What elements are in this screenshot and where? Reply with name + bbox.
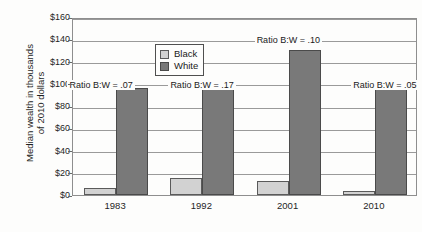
annotation-ratio-1983: Ratio B:W = .07	[67, 80, 134, 90]
y-axis-tick-label: $140	[34, 35, 70, 44]
bar-white-1983	[116, 88, 148, 195]
annotation-ratio-1992: Ratio B:W = .17	[168, 80, 235, 90]
y-axis-tick-label: $40	[34, 147, 70, 156]
bar-group-container	[73, 19, 416, 195]
legend-item-black: Black	[160, 48, 198, 60]
bar-white-2001	[289, 50, 321, 195]
bar-black-2001	[257, 181, 289, 195]
bar-white-2010	[375, 88, 407, 195]
bar-black-1992	[170, 178, 202, 195]
plot-area: Ratio B:W = .07Ratio B:W = .17Ratio B:W …	[72, 18, 417, 196]
legend-label-black: Black	[174, 49, 197, 59]
y-axis-tick-label: $60	[34, 124, 70, 133]
legend-swatch-white-icon	[160, 62, 169, 71]
y-axis-tick-label: $100	[34, 80, 70, 89]
y-axis-tick-label: $20	[34, 169, 70, 178]
x-axis-tick-label-1992: 1992	[158, 200, 244, 212]
y-axis-title: Median wealth in thousands of 2010 dolla…	[0, 0, 30, 200]
bar-white-1992	[202, 89, 234, 195]
x-axis-tick-label-2001: 2001	[245, 200, 331, 212]
x-axis-tick-label-2010: 2010	[331, 200, 417, 212]
y-axis-tick-label: $80	[34, 102, 70, 111]
annotation-ratio-2010: Ratio B:W = .05	[351, 80, 418, 90]
legend-swatch-black-icon	[160, 50, 169, 59]
y-axis-tick-label: $160	[34, 13, 70, 22]
legend-label-white: White	[174, 61, 198, 71]
annotation-ratio-2001: Ratio B:W = .10	[255, 35, 322, 45]
x-axis-tick-label-1983: 1983	[72, 200, 158, 212]
bar-black-1983	[84, 188, 116, 195]
clipped-chart-title	[70, 0, 370, 8]
y-axis-tick-labels: $0$20$40$60$80$100$120$140$160	[30, 0, 70, 232]
bar-chart-figure: Median wealth in thousands of 2010 dolla…	[0, 0, 422, 232]
bar-black-2010	[343, 191, 375, 195]
legend: Black White	[155, 44, 204, 76]
y-axis-tick-label: $120	[34, 58, 70, 67]
y-axis-tick-label: $0	[34, 191, 70, 200]
legend-item-white: White	[160, 60, 198, 72]
x-axis-tick-labels: 1983199220012010	[72, 200, 417, 218]
